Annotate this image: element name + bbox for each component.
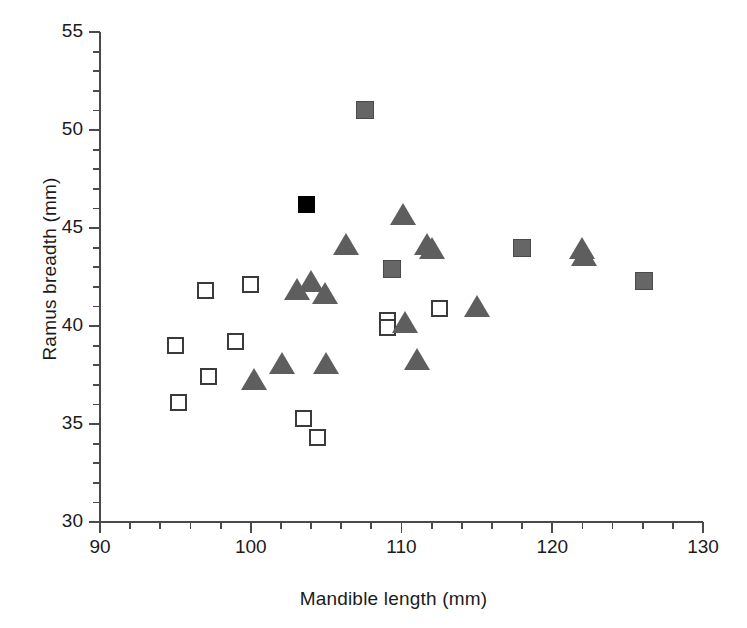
data-point-open-square	[227, 333, 244, 350]
data-point-gray-triangle	[269, 352, 295, 374]
data-point-open-square	[309, 429, 326, 446]
x-tick-label: 130	[673, 536, 733, 558]
axis-lines	[100, 32, 703, 522]
data-point-open-square	[431, 300, 448, 317]
data-point-open-square	[167, 337, 184, 354]
x-tick-label: 90	[70, 536, 130, 558]
data-point-gray-triangle	[313, 352, 339, 374]
data-point-open-square	[170, 394, 187, 411]
x-tick-label: 100	[221, 536, 281, 558]
data-point-gray-triangle	[312, 282, 338, 304]
data-point-black-square	[298, 196, 315, 213]
x-tick-label: 120	[522, 536, 582, 558]
data-point-gray-triangle	[392, 311, 418, 333]
data-point-open-square	[242, 276, 259, 293]
data-point-open-square	[200, 368, 217, 385]
data-point-gray-triangle	[419, 237, 445, 259]
x-tick-label: 110	[372, 536, 432, 558]
x-axis-title: Mandible length (mm)	[0, 588, 747, 610]
data-point-gray-triangle	[464, 295, 490, 317]
data-point-gray-square	[513, 239, 531, 257]
data-point-gray-square	[383, 260, 401, 278]
data-point-gray-triangle	[390, 203, 416, 225]
data-point-gray-triangle	[241, 368, 267, 390]
data-point-gray-square	[635, 272, 653, 290]
data-point-open-square	[197, 282, 214, 299]
data-point-gray-square	[356, 101, 374, 119]
y-tick-label: 30	[37, 510, 83, 532]
data-point-gray-triangle	[333, 233, 359, 255]
data-point-open-square	[295, 410, 312, 427]
y-tick-label: 55	[37, 20, 83, 42]
y-axis-title: Ramus breadth (mm)	[39, 119, 61, 419]
data-point-gray-triangle	[404, 348, 430, 370]
data-point-gray-triangle	[571, 244, 597, 266]
y-axis-ticks	[89, 32, 100, 522]
x-axis-ticks	[100, 522, 703, 533]
plot-axes-svg	[0, 0, 747, 628]
scatter-plot-figure: 90100110120130 303540455055 Mandible len…	[0, 0, 747, 628]
